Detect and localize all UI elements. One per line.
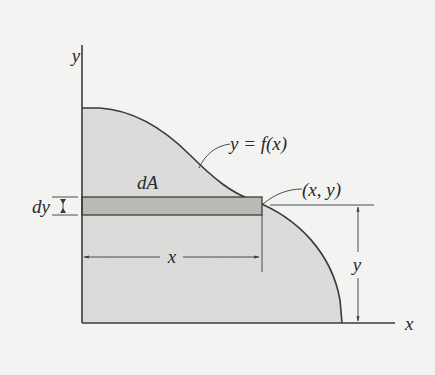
point-label: (x, y) (302, 179, 341, 201)
curve-label: y = f(x) (228, 133, 287, 155)
x-axis-label: x (404, 313, 414, 334)
dy-label: dy (32, 196, 51, 217)
y-axis-label: y (70, 45, 81, 66)
y-dimension-label: y (351, 254, 362, 275)
differential-strip (82, 197, 262, 215)
element-label: dA (137, 172, 159, 193)
curve-leader (199, 144, 230, 168)
x-dimension-label: x (167, 246, 177, 267)
point-leader (263, 189, 302, 204)
area-diagram: y x y = f(x) (x, y) dA dy x y (0, 0, 435, 375)
